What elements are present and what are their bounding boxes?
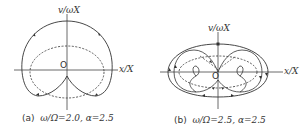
panel-b-origin-label: O xyxy=(212,72,219,81)
panel-a-y-axis-label: v/ωX xyxy=(58,6,80,15)
panel-a-caption: (a) ω/Ω=2.0, α=2.5 xyxy=(22,114,114,123)
panel-a-caption-params: ω/Ω=2.0, α=2.5 xyxy=(40,113,113,123)
panel-b-caption-prefix: (b) xyxy=(174,115,187,125)
panel-b-diagram xyxy=(160,32,283,109)
panel-b-x-axis-label: x/X xyxy=(284,67,299,76)
panel-b-y-axis-label: v/ωX xyxy=(208,24,230,33)
panel-a-origin-label: O xyxy=(60,61,67,70)
panel-b-top-marker-icon xyxy=(217,43,220,46)
panel-b-caption-params: ω/Ω=2.5, α=2.5 xyxy=(192,115,265,125)
panel-b-arrow-icon xyxy=(212,87,215,90)
panel-b-arrow-icon xyxy=(221,87,224,90)
panel-b-caption: (b) ω/Ω=2.5, α=2.5 xyxy=(174,116,266,125)
panel-a-caption-prefix: (a) xyxy=(22,113,35,123)
panel-a-x-axis-label: x/X xyxy=(119,65,134,74)
phase-diagram-canvas xyxy=(0,0,303,131)
